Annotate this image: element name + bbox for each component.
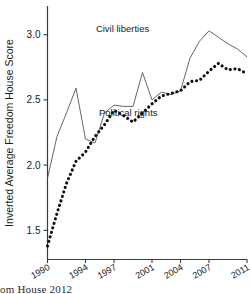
x-axis-ticks: 1990199419972001200420072011	[29, 259, 251, 281]
y-tick-label: 1.5	[27, 225, 41, 236]
y-axis-title: Inverted Average Freedom House Score	[3, 39, 15, 227]
x-tick-label: 2001	[134, 262, 156, 281]
source-caption: Freedom House 2012	[0, 283, 251, 294]
series-annotations: Civil libertiesPolitical rights	[96, 23, 158, 117]
y-tick-label: 2.5	[27, 94, 41, 105]
series-line-political-rights	[48, 63, 248, 246]
x-tick-label: 1994	[67, 262, 89, 281]
series-line-civil-liberties	[48, 31, 248, 178]
x-tick-label: 2011	[229, 262, 251, 280]
y-tick-label: 2.0	[27, 160, 41, 171]
y-axis-ticks: 1.52.02.53.0	[27, 29, 48, 236]
chart-figure: Inverted Average Freedom House Score 1.5…	[0, 0, 251, 294]
freedom-house-line-chart: Inverted Average Freedom House Score 1.5…	[0, 0, 251, 294]
series-layer	[48, 31, 248, 246]
x-tick-label: 1997	[96, 262, 118, 281]
x-tick-label: 2004	[162, 262, 184, 281]
x-tick-label: 2007	[191, 262, 213, 281]
series-label-civil-liberties: Civil liberties	[96, 23, 150, 34]
y-tick-label: 3.0	[27, 29, 41, 40]
x-tick-label: 1990	[29, 262, 51, 281]
series-label-political-rights: Political rights	[99, 107, 158, 118]
